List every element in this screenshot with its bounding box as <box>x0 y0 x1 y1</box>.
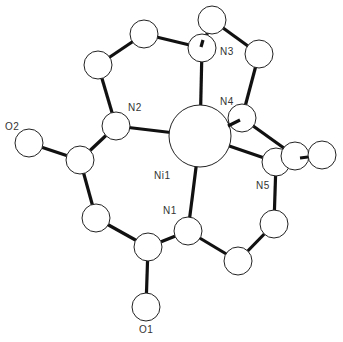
label-n4: N4 <box>220 96 234 107</box>
atom-o2 <box>15 129 43 157</box>
atom-c10 <box>260 210 288 238</box>
atom-c11 <box>224 247 252 275</box>
label-n5: N5 <box>256 180 270 191</box>
atom-c5 <box>134 233 162 261</box>
atom-c2 <box>84 51 112 79</box>
atom-c7 <box>245 40 273 68</box>
molecule-canvas: Ni1 N1 N2 N3 N4 N5 O1 O2 <box>0 0 343 342</box>
atom-n2 <box>102 112 130 140</box>
bond-stub-1 <box>201 40 203 47</box>
atom-c3 <box>66 146 94 174</box>
label-ni1: Ni1 <box>154 170 171 181</box>
label-layer: Ni1 N1 N2 N3 N4 N5 O1 O2 <box>5 46 270 335</box>
atom-ni1 <box>169 105 231 167</box>
atom-n3 <box>188 34 216 62</box>
atom-c4 <box>82 204 110 232</box>
atom-c6 <box>198 6 226 34</box>
label-o1: O1 <box>139 324 153 335</box>
atom-c9 <box>308 141 336 169</box>
label-n1: N1 <box>163 205 177 216</box>
atom-layer <box>15 6 336 321</box>
label-o2: O2 <box>5 121 19 132</box>
label-n2: N2 <box>128 102 142 113</box>
atom-o1 <box>132 293 160 321</box>
atom-c1 <box>130 20 158 48</box>
bond-stub-2 <box>300 157 308 158</box>
atom-n4 <box>228 104 256 132</box>
atom-n1 <box>174 217 202 245</box>
label-n3: N3 <box>220 46 234 57</box>
molecular-structure-diagram: Ni1 N1 N2 N3 N4 N5 O1 O2 <box>0 0 343 342</box>
